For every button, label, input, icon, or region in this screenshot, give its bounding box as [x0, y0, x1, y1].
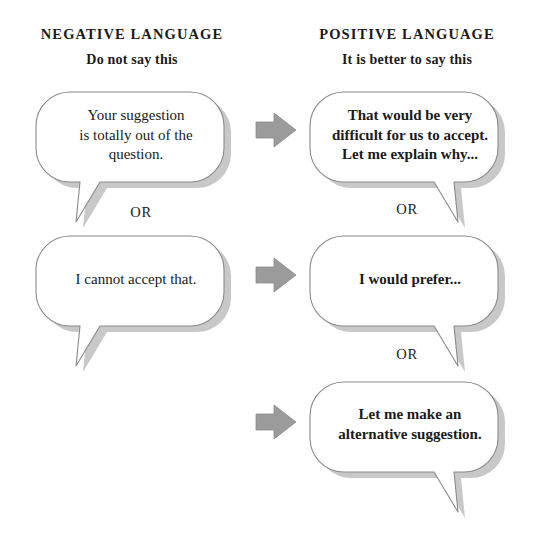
- arrow-right-icon-2: [254, 253, 298, 297]
- column-heading-positive: POSITIVE LANGUAGE It is better to say th…: [287, 26, 527, 68]
- speech-bubble-positive-1-text: That would be very difficult for us to a…: [312, 106, 508, 165]
- speech-bubble-negative-2-text: I cannot accept that.: [42, 270, 230, 290]
- column-heading-negative-title: NEGATIVE LANGUAGE: [12, 26, 252, 43]
- speech-bubble-positive-3-shape: [302, 374, 518, 522]
- speech-bubble-negative-2: I cannot accept that.: [28, 228, 244, 376]
- separator-or-positive-1: OR: [376, 201, 438, 218]
- column-heading-negative: NEGATIVE LANGUAGE Do not say this: [12, 26, 252, 68]
- column-heading-negative-subtitle: Do not say this: [12, 52, 252, 68]
- speech-bubble-positive-3-text: Let me make an alternative suggestion.: [312, 405, 508, 444]
- separator-or-negative-1: OR: [110, 204, 172, 221]
- speech-bubble-negative-2-shape: [28, 228, 244, 376]
- arrow-right-icon-1: [254, 108, 298, 152]
- speech-bubble-positive-3: Let me make an alternative suggestion.: [302, 374, 518, 522]
- speech-bubble-negative-1-text: Your suggestion is totally out of the qu…: [46, 106, 226, 165]
- separator-or-positive-2: OR: [376, 346, 438, 363]
- diagram-canvas: NEGATIVE LANGUAGE Do not say this POSITI…: [0, 0, 537, 535]
- column-heading-positive-title: POSITIVE LANGUAGE: [287, 26, 527, 43]
- speech-bubble-positive-2-text: I would prefer...: [316, 270, 504, 290]
- column-heading-positive-subtitle: It is better to say this: [287, 52, 527, 68]
- arrow-right-icon-3: [254, 400, 298, 444]
